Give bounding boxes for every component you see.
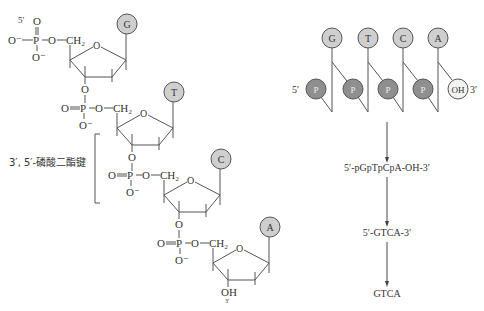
oxygen-minus: O⁻ bbox=[175, 254, 189, 266]
ch2-group: CH₂ bbox=[113, 102, 132, 114]
double-bond-oxygen: O bbox=[33, 15, 41, 27]
step-1-notation: 5′-pGpTpCpA-OH-3′ bbox=[344, 162, 430, 173]
ring-oxygen: O bbox=[187, 175, 194, 186]
bridging-oxygen: O bbox=[191, 237, 199, 249]
five-prime-label: 5′ bbox=[18, 15, 25, 25]
double-bond-oxygen: O bbox=[61, 102, 69, 114]
phosphorus: P bbox=[80, 102, 86, 114]
bridging-oxygen: O bbox=[142, 169, 150, 181]
ring-oxygen: O bbox=[140, 108, 147, 119]
svg-text:OH: OH bbox=[452, 85, 465, 95]
scheme-base-g: G bbox=[322, 28, 342, 48]
step-3-notation: GTCA bbox=[373, 288, 401, 299]
scheme-terminal-oh: OH bbox=[448, 79, 468, 99]
scheme-phosphate-4: P bbox=[413, 79, 433, 99]
scheme-phosphate-3: P bbox=[378, 79, 398, 99]
svg-text:P: P bbox=[420, 85, 425, 95]
ch2-group: CH₂ bbox=[209, 237, 228, 249]
scheme-phosphate-2: P bbox=[343, 79, 363, 99]
scheme-three-prime: 3′ bbox=[470, 84, 477, 95]
three-prime-oxygen: O bbox=[81, 83, 89, 95]
oxygen-minus-left: O⁻ bbox=[8, 34, 22, 46]
svg-text:P: P bbox=[313, 85, 318, 95]
nucleotide-unit-g: 5′ O O⁻ P O CH₂ O⁻ O G O bbox=[8, 14, 137, 103]
bridging-oxygen: O bbox=[95, 102, 103, 114]
double-bond-oxygen: O bbox=[108, 169, 116, 181]
phosphorus: P bbox=[176, 237, 182, 249]
svg-text:C: C bbox=[400, 33, 407, 44]
oxygen-minus: O⁻ bbox=[79, 119, 93, 131]
oxygen-minus: O⁻ bbox=[32, 51, 46, 63]
step-2-notation: 5′-GTCA-3′ bbox=[363, 227, 411, 238]
phosphorus: P bbox=[127, 169, 133, 181]
base-a-label: A bbox=[266, 222, 274, 233]
base-t-label: T bbox=[171, 87, 177, 98]
nucleotide-unit-c: O P O CH₂ O⁻ O C O bbox=[108, 149, 231, 238]
three-prime-label: 3′ bbox=[225, 298, 230, 304]
three-prime-oxygen: O bbox=[175, 218, 183, 230]
svg-text:G: G bbox=[328, 33, 335, 44]
phosphodiester-bracket bbox=[95, 134, 100, 203]
scheme-five-prime: 5′ bbox=[292, 84, 299, 95]
phosphorus: P bbox=[33, 34, 39, 46]
scheme-base-c: C bbox=[393, 28, 413, 48]
base-g-label: G bbox=[123, 19, 130, 30]
svg-text:P: P bbox=[350, 85, 355, 95]
ring-oxygen: O bbox=[236, 243, 243, 254]
terminal-oh: OH bbox=[221, 286, 237, 298]
scheme-base-a: A bbox=[428, 28, 448, 48]
right-scheme: G T C A 5′ P P P P bbox=[292, 28, 477, 299]
svg-text:T: T bbox=[365, 33, 371, 44]
phosphodiester-bond-label: 3′, 5′-磷酸二酯键 bbox=[9, 156, 86, 168]
bridging-oxygen: O bbox=[48, 34, 56, 46]
scheme-base-t: T bbox=[358, 28, 378, 48]
svg-text:P: P bbox=[385, 85, 390, 95]
arrowhead-3 bbox=[385, 281, 389, 287]
scheme-phosphate-1: P bbox=[306, 79, 326, 99]
ch2-group: CH₂ bbox=[160, 169, 179, 181]
oxygen-minus: O⁻ bbox=[126, 186, 140, 198]
nucleotide-unit-a: O P O CH₂ O⁻ O A OH 3′ bbox=[157, 217, 280, 304]
three-prime-oxygen: O bbox=[128, 151, 136, 163]
svg-text:A: A bbox=[434, 33, 442, 44]
double-bond-oxygen: O bbox=[157, 237, 165, 249]
dna-structure-diagram: 5′ O O⁻ P O CH₂ O⁻ O G O bbox=[0, 0, 484, 311]
ch2-group: CH₂ bbox=[66, 34, 85, 46]
left-structure: 5′ O O⁻ P O CH₂ O⁻ O G O bbox=[8, 14, 280, 304]
base-c-label: C bbox=[218, 154, 225, 165]
ring-oxygen: O bbox=[93, 40, 100, 51]
